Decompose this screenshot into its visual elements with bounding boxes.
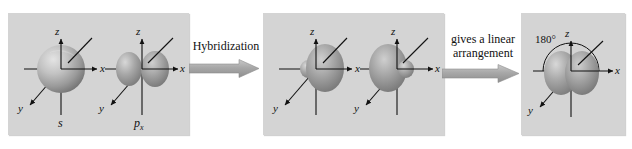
p-orbital: [8, 13, 189, 135]
p-orbital-label: px: [134, 117, 144, 132]
step-hybridization: Hybridization: [190, 40, 262, 90]
panel-reactants: z x y s: [8, 13, 189, 135]
linear-axis-label-x: x: [615, 65, 620, 76]
p-orbital-label-subscript: x: [140, 123, 144, 132]
step-hybridization-caption: Hybridization: [190, 40, 262, 54]
sp-hybrid-left-axis-label-y: y: [354, 103, 359, 114]
step-linear-caption-line-2: arrangement: [453, 46, 513, 60]
step-hybridization-caption-line-1: Hybridization: [193, 39, 260, 53]
linear-axis-label-z: z: [565, 28, 569, 39]
sp-hybrid-orbital-left: [263, 13, 444, 135]
linear-axis-label-y: y: [528, 105, 533, 116]
step-linear-caption-line-1: gives a linear: [451, 32, 515, 46]
step-hybridization-arrow-icon: [189, 59, 261, 79]
step-linear: gives a linear arrangement: [443, 33, 523, 91]
sp-hybrid-left-axis-label-x: x: [435, 63, 440, 74]
step-linear-arrow-icon: [442, 64, 522, 84]
p-orbital-axis-label-z: z: [136, 26, 140, 37]
sp-hybrid-left-axis-label-z: z: [391, 26, 395, 37]
orbital-hybridization-figure: z x y s: [0, 0, 632, 149]
p-orbital-axis-label-y: y: [99, 103, 104, 114]
step-linear-caption: gives a linear arrangement: [443, 33, 523, 61]
linear-angle-label: 180°: [535, 34, 556, 45]
p-orbital-axis-label-x: x: [180, 63, 185, 74]
panel-linear: 180° z x y: [521, 13, 625, 135]
panel-hybrids: z x y z x y: [263, 13, 444, 135]
linear-sp-orbitals: [521, 13, 625, 135]
